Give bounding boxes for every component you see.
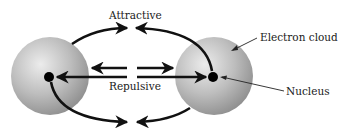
attractive-label: Attractive: [109, 10, 162, 21]
right-nucleus: [208, 72, 218, 82]
attractive-arrow-top-left: [72, 28, 127, 44]
electron-cloud-label: Electron cloud: [260, 32, 338, 43]
nucleus-label: Nucleus: [286, 86, 330, 97]
repulsive-label: Repulsive: [109, 81, 161, 92]
attractive-arrow-bottom-right: [137, 108, 190, 122]
left-nucleus: [44, 72, 54, 82]
